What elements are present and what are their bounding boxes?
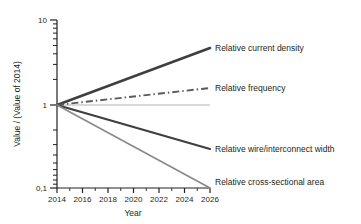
y-axis-title: Value / (Value of 2014) bbox=[12, 61, 22, 147]
x-tick-label-2018: 2018 bbox=[99, 195, 117, 204]
line-chart: 10 1 0,1 Value / (Value of 2014) 2014 20… bbox=[0, 0, 361, 224]
x-tick-label-2014: 2014 bbox=[48, 195, 66, 204]
x-tick-label-2020: 2020 bbox=[125, 195, 143, 204]
y-tick-label-0-1: 0,1 bbox=[36, 184, 48, 193]
chart-figure: 10 1 0,1 Value / (Value of 2014) 2014 20… bbox=[0, 0, 361, 224]
y-tick-label-1: 1 bbox=[43, 101, 48, 110]
series-label-relative-frequency: Relative frequency bbox=[215, 83, 286, 93]
series-label-relative-wire-width: Relative wire/interconnect width bbox=[215, 144, 335, 154]
x-tick-label-2016: 2016 bbox=[74, 195, 92, 204]
series-label-relative-cross-sectional-area: Relative cross-sectional area bbox=[215, 177, 324, 187]
x-tick-label-2022: 2022 bbox=[150, 195, 168, 204]
series-label-relative-current-density: Relative current density bbox=[215, 43, 305, 53]
x-tick-label-2024: 2024 bbox=[176, 195, 194, 204]
x-axis-title: Year bbox=[124, 208, 141, 218]
y-tick-label-10: 10 bbox=[38, 16, 47, 25]
x-tick-label-2026: 2026 bbox=[201, 195, 219, 204]
